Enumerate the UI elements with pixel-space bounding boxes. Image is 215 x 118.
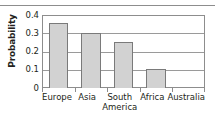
y-tick-label: 0.4	[17, 11, 39, 20]
y-axis-title: Probability	[7, 3, 17, 79]
x-tick-label-line: America	[102, 102, 137, 112]
y-tick-label: 0.2	[17, 47, 39, 56]
page-rule	[0, 5, 215, 6]
y-tick-label: 0.1	[17, 65, 39, 74]
x-tick-label: Europe	[42, 92, 72, 112]
bar-slot	[107, 15, 140, 88]
bar	[146, 69, 166, 88]
x-tick-label-line: Africa	[137, 92, 167, 102]
bar-slot	[75, 15, 108, 88]
bar	[49, 23, 69, 88]
x-tick-label-line: Asia	[72, 92, 102, 102]
x-axis-tick-labels: EuropeAsiaSouthAmericaAfricaAustralia	[42, 92, 205, 112]
bar	[114, 42, 134, 88]
x-tick-label: Asia	[72, 92, 102, 112]
x-tick-label-line: Australia	[167, 92, 205, 102]
x-tick-label: Australia	[167, 92, 205, 112]
bar-slot	[42, 15, 75, 88]
x-tick-label: Africa	[137, 92, 167, 112]
x-tick-label: SouthAmerica	[102, 92, 137, 112]
bar-series	[42, 15, 205, 88]
bar-slot	[172, 15, 205, 88]
bar-slot	[140, 15, 173, 88]
y-tick-label: 0	[17, 84, 39, 93]
x-tick-label-line: South	[102, 92, 137, 102]
y-tick-label: 0.3	[17, 29, 39, 38]
x-tick-label-line: Europe	[42, 92, 72, 102]
bar	[81, 33, 101, 88]
bar-chart-figure: Probability 00.10.20.30.4 EuropeAsiaSout…	[0, 0, 215, 118]
